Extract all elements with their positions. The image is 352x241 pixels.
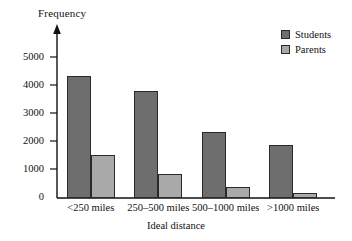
bar-group [134, 52, 182, 198]
bar-students-1 [134, 91, 158, 198]
bar-chart: Frequency 5000 4000 3000 2000 1000 0 <25… [0, 0, 352, 241]
bar-parents-2 [226, 187, 250, 198]
y-tick-3000: 3000 [4, 108, 44, 118]
legend-item-students: Students [281, 28, 331, 41]
plot-area [57, 52, 327, 198]
y-tick-2000: 2000 [4, 136, 44, 146]
bar-students-3 [269, 145, 293, 198]
bar-parents-0 [91, 155, 115, 198]
bar-group [202, 52, 250, 198]
bar-parents-3 [293, 193, 317, 198]
x-axis-title: Ideal distance [0, 220, 352, 231]
legend-label-parents: Parents [295, 44, 326, 55]
legend-item-parents: Parents [281, 43, 331, 56]
bar-students-2 [202, 132, 226, 198]
legend-swatch-icon-parents [281, 45, 290, 54]
y-axis-tick-labels: 5000 4000 3000 2000 1000 0 [0, 0, 44, 241]
bar-group [269, 52, 317, 198]
legend-label-students: Students [295, 29, 331, 40]
legend: Students Parents [281, 28, 331, 58]
bar-parents-1 [158, 174, 182, 198]
legend-swatch-icon-students [281, 30, 290, 39]
y-tick-4000: 4000 [4, 80, 44, 90]
bar-group [67, 52, 115, 198]
y-tick-1000: 1000 [4, 164, 44, 174]
bar-students-0 [67, 76, 91, 198]
x-tick-label-3: >1000 miles [248, 202, 338, 213]
y-tick-0: 0 [4, 192, 44, 202]
y-tick-5000: 5000 [4, 52, 44, 62]
